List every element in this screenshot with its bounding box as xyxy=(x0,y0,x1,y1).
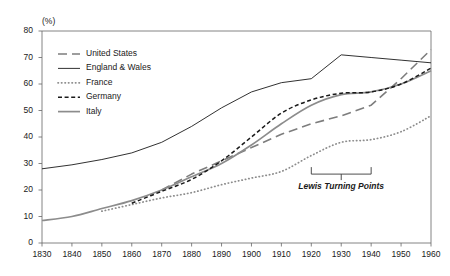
chart-container: (%) 010203040506070801830184018501860187… xyxy=(0,0,450,276)
legend-label-england-wales: England & Wales xyxy=(86,62,151,72)
lewis-turning-points-bracket xyxy=(311,167,371,180)
y-axis-tick-label: 50 xyxy=(9,105,33,115)
y-axis-tick-label: 0 xyxy=(9,237,33,247)
annotation-label-lewis-turning-points: Lewis Turning Points xyxy=(298,181,384,191)
y-axis-tick-label: 10 xyxy=(9,211,33,221)
legend-label-germany: Germany xyxy=(86,91,121,101)
x-axis-tick-label: 1840 xyxy=(57,249,87,259)
y-axis-tick-label: 80 xyxy=(9,25,33,35)
x-axis-tick-label: 1900 xyxy=(236,249,266,259)
x-axis-tick-label: 1890 xyxy=(207,249,237,259)
legend-label-france: France xyxy=(86,77,112,87)
line-chart-plot xyxy=(0,0,450,276)
y-axis-tick-label: 40 xyxy=(9,131,33,141)
x-axis-tick-label: 1940 xyxy=(356,249,386,259)
x-axis-tick-label: 1870 xyxy=(147,249,177,259)
y-axis-tick-label: 60 xyxy=(9,78,33,88)
y-axis-tick-label: 30 xyxy=(9,158,33,168)
x-axis-tick-label: 1850 xyxy=(87,249,117,259)
series-line-france xyxy=(102,116,431,211)
legend-label-italy: Italy xyxy=(86,106,102,116)
x-axis-tick-label: 1950 xyxy=(386,249,416,259)
x-axis-tick-label: 1910 xyxy=(266,249,296,259)
y-axis-tick-label: 20 xyxy=(9,184,33,194)
x-axis-tick-label: 1860 xyxy=(117,249,147,259)
y-axis-tick-label: 70 xyxy=(9,52,33,62)
x-axis-tick-label: 1880 xyxy=(177,249,207,259)
legend-label-united-states: United States xyxy=(86,48,137,58)
x-axis-tick-label: 1960 xyxy=(416,249,446,259)
x-axis-tick-label: 1920 xyxy=(296,249,326,259)
x-axis-tick-label: 1830 xyxy=(27,249,57,259)
x-axis-tick-label: 1930 xyxy=(326,249,356,259)
